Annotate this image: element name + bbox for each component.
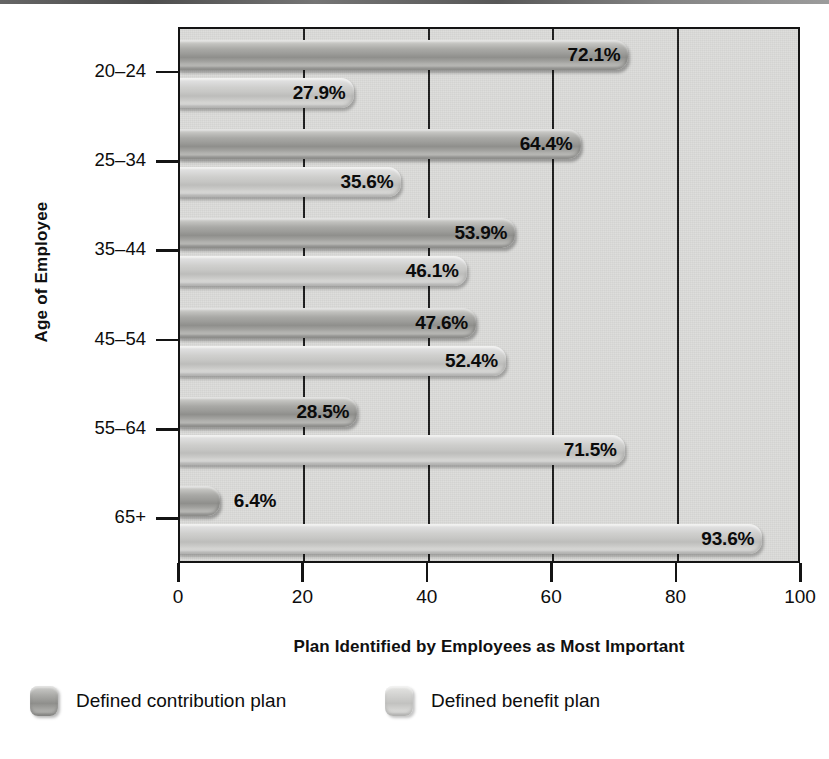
bar-row: 72.1% (180, 40, 800, 70)
legend-swatch-light (385, 686, 413, 716)
x-tick-label-80: 80 (646, 586, 706, 608)
y-tick-65+ (156, 517, 178, 520)
plot-area: 72.1%27.9%64.4%35.6%53.9%46.1%47.6%52.4%… (178, 27, 800, 563)
x-tick-label-60: 60 (521, 586, 581, 608)
legend-label: Defined benefit plan (431, 690, 600, 712)
bar-value-label: 53.9% (445, 222, 507, 244)
gridline-40 (428, 29, 430, 561)
x-tick-100 (799, 563, 802, 582)
bar-value-label: 71.5% (555, 439, 617, 461)
gridline-60 (552, 29, 554, 561)
bar-value-label: 35.6% (331, 171, 393, 193)
bar-row: 52.4% (180, 346, 800, 376)
bar-65+-series1 (178, 486, 220, 516)
y-tick-label-45–54: 45–54 (0, 328, 146, 350)
bar-value-label: 64.4% (511, 133, 573, 155)
chart-legend: Defined contribution planDefined benefit… (0, 686, 829, 732)
legend-label: Defined contribution plan (76, 690, 286, 712)
bar-value-label: 72.1% (558, 44, 620, 66)
x-tick-0 (177, 563, 180, 582)
bar-value-label: 27.9% (284, 82, 346, 104)
legend-swatch-dark (30, 686, 58, 716)
bar-value-label: 28.5% (287, 401, 349, 423)
x-tick-60 (550, 563, 553, 582)
bar-value-label: 6.4% (234, 490, 277, 512)
y-tick-55–64 (156, 428, 178, 431)
bar-row: 93.6% (180, 524, 800, 554)
bar-chart-figure: Age of Employee 20–2425–3435–4445–5455–6… (0, 0, 829, 759)
gridline-20 (303, 29, 305, 561)
bar-65+-series2 (178, 524, 762, 554)
bar-row: 47.6% (180, 308, 800, 338)
x-tick-label-100: 100 (770, 586, 829, 608)
y-tick-35–44 (156, 249, 178, 252)
gridline-80 (677, 29, 679, 561)
bar-row: 6.4% (180, 486, 800, 516)
y-tick-label-55–64: 55–64 (0, 417, 146, 439)
bar-value-label: 47.6% (406, 312, 468, 334)
bar-row: 53.9% (180, 218, 800, 248)
y-tick-label-25–34: 25–34 (0, 149, 146, 171)
y-tick-20–24 (156, 71, 178, 74)
bar-value-label: 46.1% (397, 260, 459, 282)
bar-value-label: 52.4% (436, 350, 498, 372)
y-tick-label-65+: 65+ (0, 506, 146, 528)
bar-value-label: 93.6% (692, 528, 754, 550)
y-tick-label-20–24: 20–24 (0, 60, 146, 82)
x-tick-40 (426, 563, 429, 582)
x-tick-label-40: 40 (397, 586, 457, 608)
y-tick-25–34 (156, 160, 178, 163)
x-axis-title: Plan Identified by Employees as Most Imp… (178, 637, 800, 657)
bar-row: 35.6% (180, 167, 800, 197)
bar-row: 64.4% (180, 129, 800, 159)
bar-row: 27.9% (180, 78, 800, 108)
bar-row: 71.5% (180, 435, 800, 465)
y-axis-title: Age of Employee (32, 152, 52, 392)
x-tick-label-20: 20 (272, 586, 332, 608)
x-tick-20 (301, 563, 304, 582)
x-tick-label-0: 0 (148, 586, 208, 608)
bar-row: 46.1% (180, 256, 800, 286)
legend-item-2[interactable]: Defined benefit plan (385, 686, 600, 716)
y-tick-45–54 (156, 339, 178, 342)
x-tick-80 (675, 563, 678, 582)
bar-row: 28.5% (180, 397, 800, 427)
y-tick-label-35–44: 35–44 (0, 238, 146, 260)
legend-item-1[interactable]: Defined contribution plan (30, 686, 286, 716)
